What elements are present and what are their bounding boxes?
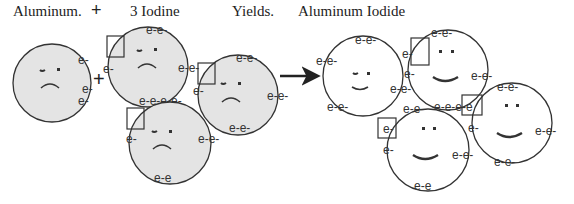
- electron-pair: e-e-: [267, 89, 288, 103]
- electron-pair: e-e-: [355, 33, 376, 47]
- electron-pair: e-e-: [198, 132, 219, 146]
- electron-pair: e-e-: [316, 54, 337, 68]
- electron-label: e-: [193, 84, 204, 98]
- electron-pair: e-e-: [497, 80, 518, 94]
- electron-label: e-: [103, 62, 114, 76]
- electron-pair: e-e-: [146, 23, 167, 37]
- electron-label: e-: [78, 53, 89, 67]
- electron-label: e-: [383, 122, 394, 136]
- electron-label: e-: [78, 94, 89, 108]
- electron-pair: e-e-: [229, 121, 250, 135]
- electron-label: e-: [402, 47, 413, 61]
- iodine-atom-2: e-e- e- e-e- e-e-: [193, 51, 288, 135]
- reaction-diagram: e- e- e- + e-e- e- e-e- e-e-e-e- e-e- e-…: [0, 0, 574, 204]
- electron-pair: e-e-: [535, 124, 556, 138]
- electron-label: e-: [126, 132, 137, 146]
- electron-label: e-: [383, 143, 394, 157]
- aluminum-atom: e- e- e-: [13, 44, 93, 122]
- iodide-ion-2: e-e- e- e- e-e- e-e: [378, 102, 473, 193]
- electron-pair: e-e-: [327, 100, 348, 114]
- aluminum-ion: e-e- e-e- e-e- e-e-: [316, 33, 411, 116]
- electron-pair: e-e: [414, 179, 432, 193]
- electron-pair: e-e-: [403, 102, 424, 116]
- electron-pair: e-e-: [236, 51, 257, 65]
- electron-pair: e-e-: [471, 69, 492, 83]
- iodine-atom-1: e-e- e- e-e- e-e-e-e-: [103, 23, 199, 108]
- electron-pair: e-e: [154, 171, 172, 185]
- electron-pair: e-e-: [452, 148, 473, 162]
- electron-label: e-: [468, 121, 479, 135]
- electron-label: e-: [404, 67, 415, 81]
- electron-pair: e-e-: [390, 82, 411, 96]
- electron-pair: e-e-: [431, 26, 452, 40]
- electron-pair: e-e-: [178, 61, 199, 75]
- electron-pair: e-e-: [494, 155, 515, 169]
